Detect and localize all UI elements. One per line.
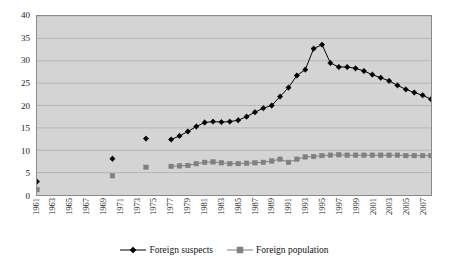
data-point-marker [395,153,400,158]
data-point-marker [185,129,190,134]
x-tick-label: 1965 [65,198,74,215]
data-point-marker [37,187,39,192]
data-point-marker [404,153,409,158]
data-point-marker [378,153,383,158]
data-point-marker [361,68,366,73]
data-point-marker [336,152,341,157]
y-tick-label: 15 [21,124,30,133]
data-point-marker [420,93,425,98]
data-point-marker [269,159,274,164]
x-tick-label: 2001 [369,198,378,215]
data-point-marker [261,160,266,165]
data-point-marker [345,153,350,158]
plot-canvas [37,16,431,195]
square-marker-icon [227,245,253,255]
y-tick-label: 25 [21,78,30,87]
data-point-marker [244,161,249,166]
data-point-marker [210,119,215,124]
data-point-marker [143,136,148,141]
y-tick-label: 5 [26,169,31,178]
y-tick-label: 10 [21,146,30,155]
x-tick-label: 1997 [335,198,344,215]
y-tick-label: 20 [21,101,30,110]
data-point-marker [177,133,182,138]
legend-item-foreign-population: Foreign population [227,245,329,255]
data-point-marker [236,118,241,123]
data-point-marker [194,161,199,166]
data-point-marker [261,106,266,111]
series-foreign-suspects [37,42,431,184]
data-point-marker [412,90,417,95]
data-point-marker [144,165,149,170]
data-point-marker [110,173,115,178]
x-tick-label: 2003 [385,198,394,215]
data-point-marker [420,153,425,158]
y-tick-label: 30 [21,56,30,65]
x-tick-label: 1995 [318,198,327,215]
data-point-marker [295,157,300,162]
data-point-marker [429,153,431,158]
x-tick-label: 1975 [149,198,158,215]
data-point-marker [353,153,358,158]
data-point-marker [344,64,349,69]
data-point-marker [202,120,207,125]
data-point-marker [362,153,367,158]
x-tick-label: 1987 [251,198,260,215]
data-point-marker [211,160,216,165]
data-point-marker [219,161,224,166]
x-tick-label: 1991 [284,198,293,215]
data-point-marker [202,160,207,165]
data-point-marker [227,119,232,124]
x-tick-label: 2007 [419,198,428,215]
data-point-marker [303,155,308,160]
y-tick-label: 35 [21,33,30,42]
data-point-marker [319,42,324,47]
data-point-marker [219,119,224,124]
data-point-marker [320,153,325,158]
series-foreign-population [37,152,431,191]
data-point-marker [169,164,174,169]
data-point-marker [278,157,283,162]
data-point-marker [328,153,333,158]
x-tick-label: 1967 [82,198,91,215]
data-point-marker [168,137,173,142]
data-point-marker [186,163,191,168]
x-tick-label: 1977 [166,198,175,215]
y-axis: 0510152025303540 [0,0,34,196]
data-point-marker [37,179,40,184]
data-point-marker [252,110,257,115]
legend-label: Foreign population [256,245,329,255]
legend-item-foreign-suspects: Foreign suspects [120,245,213,255]
x-axis: 1961196319651967196919711973197519771979… [36,198,432,240]
series-line [171,45,431,140]
x-tick-label: 1985 [234,198,243,215]
x-tick-label: 1973 [133,198,142,215]
diamond-marker-icon [120,245,146,255]
data-point-marker [311,46,316,51]
y-tick-label: 0 [26,192,31,201]
data-point-marker [244,114,249,119]
chart-legend: Foreign suspectsForeign population [0,240,449,260]
legend-label: Foreign suspects [149,245,213,255]
chart-container: 0510152025303540 19611963196519671969197… [0,0,449,262]
data-point-marker [353,66,358,71]
data-point-marker [336,64,341,69]
data-point-marker [110,156,115,161]
data-point-marker [428,97,431,102]
x-tick-label: 1979 [183,198,192,215]
x-tick-label: 1981 [200,198,209,215]
y-tick-label: 40 [21,11,30,20]
x-tick-label: 1993 [301,198,310,215]
data-point-marker [378,75,383,80]
series-line [171,155,431,167]
data-point-marker [311,154,316,159]
x-tick-label: 1961 [32,198,41,215]
data-point-marker [412,153,417,158]
data-point-marker [387,153,392,158]
x-tick-label: 2005 [402,198,411,215]
data-point-marker [194,124,199,129]
data-point-marker [253,161,258,166]
x-tick-label: 1963 [48,198,57,215]
x-tick-label: 1999 [352,198,361,215]
data-point-marker [286,160,291,165]
